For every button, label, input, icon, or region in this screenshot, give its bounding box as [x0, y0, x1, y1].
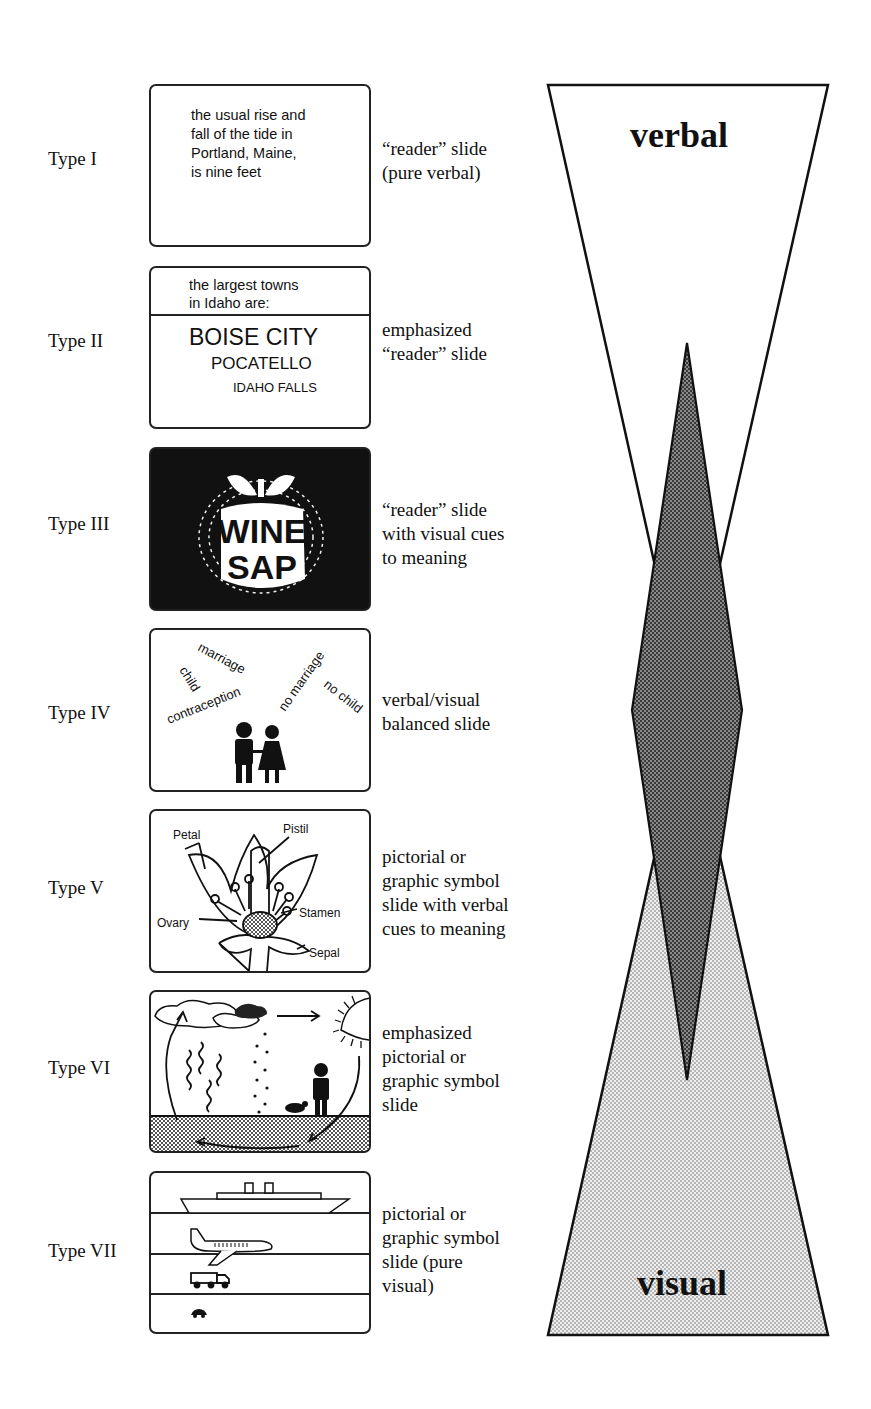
desc-line: graphic symbol	[382, 1069, 500, 1093]
slide-header: the largest towns in Idaho are:	[189, 276, 299, 312]
slide-text: the usual rise and fall of the tide in P…	[191, 106, 305, 182]
desc-line: (pure verbal)	[382, 161, 487, 185]
type-label-3: Type III	[48, 513, 109, 535]
desc-line: emphasized	[382, 318, 487, 342]
truck-icon	[191, 1273, 229, 1288]
desc-line: “reader” slide	[382, 342, 487, 366]
transport-icons	[149, 1171, 371, 1334]
description-type-6: emphasized pictorial or graphic symbol s…	[382, 1021, 500, 1117]
slide-line: Portland, Maine,	[191, 144, 305, 163]
desc-line: emphasized	[382, 1021, 500, 1045]
verbal-label: verbal	[630, 114, 728, 156]
balanced-diamond	[632, 343, 742, 1080]
label-petal: Petal	[173, 828, 200, 842]
slide-line: the largest towns	[189, 276, 299, 294]
slide-line: fall of the tide in	[191, 125, 305, 144]
description-type-3: “reader” slide with visual cues to meani…	[382, 498, 504, 570]
label-ovary: Ovary	[157, 916, 189, 930]
desc-line: cues to meaning	[382, 917, 509, 941]
slide-type-2: the largest towns in Idaho are: BOISE CI…	[149, 266, 371, 429]
slide-type-5: Petal Pistil Stamen Ovary Sepal	[149, 809, 371, 973]
couple-icon	[235, 722, 286, 783]
desc-line: with visual cues	[382, 522, 504, 546]
word-child: child	[176, 664, 203, 695]
verbal-triangle	[548, 85, 828, 710]
water-cycle-icon	[149, 990, 371, 1153]
word-no-child: no child	[321, 677, 366, 716]
slide-line: in Idaho are:	[189, 294, 299, 312]
desc-line: visual)	[382, 1274, 500, 1298]
slide-line: the usual rise and	[191, 106, 305, 125]
description-type-5: pictorial or graphic symbol slide with v…	[382, 845, 509, 941]
visual-triangle	[548, 710, 828, 1335]
airplane-icon	[191, 1229, 272, 1252]
apple-icon: WINE SAP	[149, 447, 371, 611]
town-2: POCATELLO	[211, 354, 312, 374]
type-label-2: Type II	[48, 330, 103, 352]
type-label-7: Type VII	[48, 1240, 117, 1262]
slide-line: is nine feet	[191, 163, 305, 182]
slide-type-3: WINE SAP	[149, 447, 371, 611]
type-label-4: Type IV	[48, 702, 111, 724]
word-wine: WINE	[218, 512, 307, 550]
car-icon	[191, 1309, 207, 1318]
slide-type-6	[149, 990, 371, 1153]
description-type-7: pictorial or graphic symbol slide (pure …	[382, 1202, 500, 1298]
desc-line: graphic symbol	[382, 1226, 500, 1250]
word-sap: SAP	[227, 548, 297, 586]
divider	[151, 314, 369, 316]
label-stamen: Stamen	[299, 906, 340, 920]
desc-line: “reader” slide	[382, 498, 504, 522]
desc-line: “reader” slide	[382, 137, 487, 161]
label-sepal: Sepal	[309, 946, 340, 960]
visual-label: visual	[637, 1262, 727, 1304]
description-type-2: emphasized “reader” slide	[382, 318, 487, 366]
slide-type-4: marriage child contraception no marriage…	[149, 628, 371, 792]
desc-line: pictorial or	[382, 1045, 500, 1069]
desc-line: balanced slide	[382, 712, 490, 736]
town-1: BOISE CITY	[189, 324, 318, 351]
desc-line: graphic symbol	[382, 869, 509, 893]
type-label-1: Type I	[48, 148, 97, 170]
slide-type-7	[149, 1171, 371, 1334]
word-marriage: marriage	[196, 639, 248, 676]
desc-line: slide	[382, 1093, 500, 1117]
description-type-1: “reader” slide (pure verbal)	[382, 137, 487, 185]
desc-line: pictorial or	[382, 845, 509, 869]
label-pistil: Pistil	[283, 822, 308, 836]
desc-line: slide with verbal	[382, 893, 509, 917]
slide-type-1: the usual rise and fall of the tide in P…	[149, 84, 371, 247]
words-and-couple: marriage child contraception no marriage…	[149, 628, 371, 792]
flower-icon: Petal Pistil Stamen Ovary Sepal	[149, 809, 371, 973]
type-label-6: Type VI	[48, 1057, 110, 1079]
desc-line: pictorial or	[382, 1202, 500, 1226]
type-label-5: Type V	[48, 877, 104, 899]
ship-icon	[181, 1199, 349, 1213]
town-3: IDAHO FALLS	[233, 380, 317, 395]
word-contraception: contraception	[165, 684, 243, 727]
desc-line: to meaning	[382, 546, 504, 570]
word-no-marriage: no marriage	[275, 648, 327, 713]
description-type-4: verbal/visual balanced slide	[382, 688, 490, 736]
desc-line: slide (pure	[382, 1250, 500, 1274]
desc-line: verbal/visual	[382, 688, 490, 712]
